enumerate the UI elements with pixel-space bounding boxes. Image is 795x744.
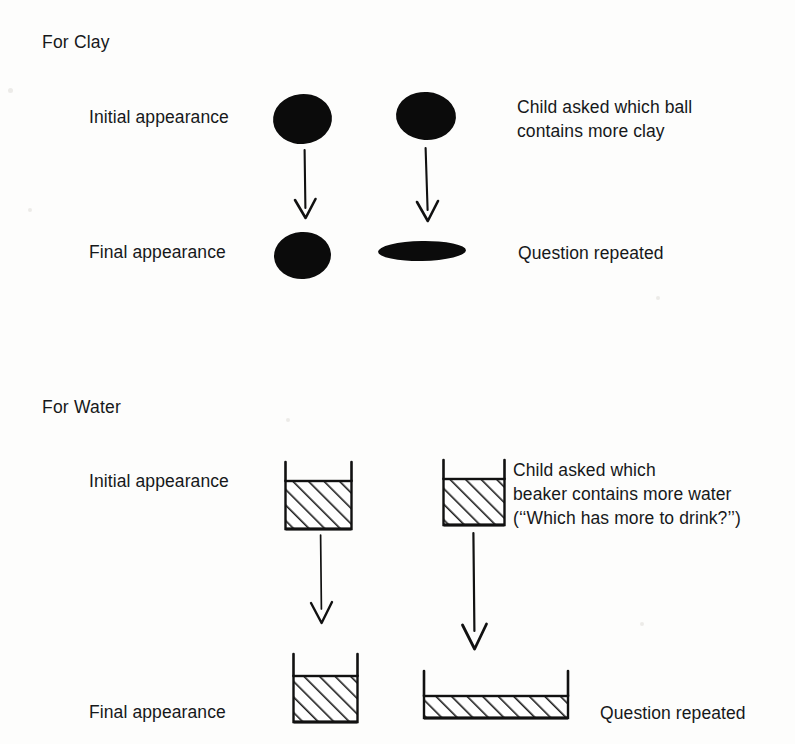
water-left-transform-arrow [303,533,343,629]
clay-final-appearance-label: Final appearance [89,241,226,264]
scan-speck [8,88,13,93]
water-right-transform-arrow [456,531,496,653]
conservation-task-figure: For Clay Initial appearance Child asked … [0,0,795,744]
water-initial-note-line-1: Child asked which [513,458,656,482]
section-heading-clay: For Clay [42,31,110,54]
water-initial-note-line-2: beaker contains more water [513,482,732,506]
clay-initial-note-line-2: contains more clay [517,119,665,143]
water-final-left-beaker [290,648,366,728]
water-initial-left-beaker [282,456,358,536]
water-final-right-wide-beaker [420,666,576,726]
clay-final-left-ball [272,230,332,281]
scan-speck [640,622,644,626]
clay-initial-appearance-label: Initial appearance [89,106,229,129]
water-final-appearance-label: Final appearance [89,701,226,724]
scan-speck [286,418,290,422]
scan-speck [28,208,32,212]
clay-initial-right-ball [394,90,457,142]
clay-initial-left-ball [271,91,335,147]
clay-right-transform-arrow [407,146,449,228]
water-initial-right-beaker [440,455,512,533]
clay-initial-note-line-1: Child asked which ball [517,95,692,119]
section-heading-water: For Water [42,396,121,419]
water-initial-note-line-3: (‘‘Which has more to drink?’’) [513,506,741,530]
clay-left-transform-arrow [285,148,327,224]
clay-final-note: Question repeated [518,241,664,265]
clay-final-right-pancake [378,240,466,262]
scan-speck [656,296,660,300]
water-initial-appearance-label: Initial appearance [89,470,229,493]
water-final-note: Question repeated [600,701,746,725]
